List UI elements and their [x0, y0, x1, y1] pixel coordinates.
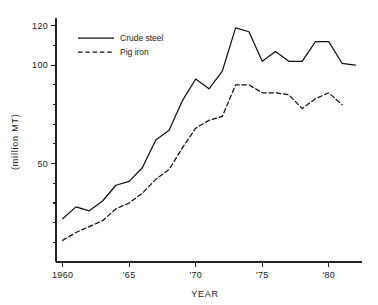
y-axis: 50100120: [32, 18, 56, 262]
x-tick-label: '75: [256, 270, 269, 280]
line-chart: 50100120 1960'65'70'75'80 (million MT) Y…: [0, 0, 378, 305]
series-line-crude-steel: [63, 28, 356, 219]
x-tick-label: '65: [123, 270, 136, 280]
chart-legend: Crude steelPig iron: [78, 33, 164, 57]
x-tick-label: '70: [189, 270, 202, 280]
y-tick-label: 100: [32, 60, 48, 70]
legend-label-pig-iron: Pig iron: [120, 47, 149, 57]
x-tick-label: 1960: [52, 270, 73, 280]
chart-container: 50100120 1960'65'70'75'80 (million MT) Y…: [0, 0, 378, 305]
series-group: [63, 28, 356, 241]
legend-label-crude-steel: Crude steel: [120, 33, 164, 43]
y-tick-label: 120: [32, 21, 48, 31]
x-tick-label: '80: [322, 270, 335, 280]
y-tick-label: 50: [37, 159, 48, 169]
y-axis-title: (million MT): [10, 113, 20, 170]
x-axis-tick-labels: 1960'65'70'75'80: [52, 270, 335, 280]
y-axis-ticks: [51, 26, 56, 242]
x-axis-title: YEAR: [191, 289, 219, 299]
x-axis-ticks: [63, 262, 329, 267]
x-axis: 1960'65'70'75'80: [52, 262, 362, 280]
series-line-pig-iron: [63, 85, 342, 240]
y-axis-tick-labels: 50100120: [32, 21, 48, 169]
